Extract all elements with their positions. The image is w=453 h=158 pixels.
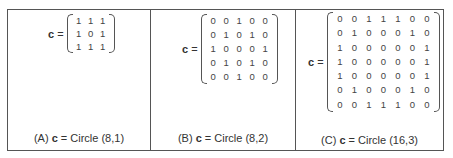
caption-label: (C) (321, 134, 336, 146)
matrix-row: 0 0 1 1 1 0 0 (333, 12, 435, 26)
matrix-cell: 0 (220, 42, 233, 56)
matrix-cell: 0 (405, 41, 420, 55)
equation-c: c = 0 0 1 1 1 0 0 0 1 0 0 0 1 (308, 12, 440, 112)
matrix-cell: 0 (233, 42, 246, 56)
matrix-cell: 0 (246, 70, 259, 84)
matrix-cell: 0 (420, 26, 435, 40)
caption-c: (C) c = Circle (16,3) (296, 134, 443, 146)
figure-table: c = 1 1 1 1 0 1 1 1 1 (A) (7, 9, 444, 151)
matrix-cell: 1 (420, 41, 435, 55)
matrix-cell: 0 (362, 83, 377, 97)
matrix-cell: 0 (347, 12, 362, 26)
matrix-cell: 0 (362, 26, 377, 40)
matrix-cell: 0 (420, 83, 435, 97)
matrix-cell: 0 (362, 69, 377, 83)
matrix-cell: 0 (85, 27, 97, 40)
matrix-cell: 0 (333, 12, 348, 26)
matrix-cell: 1 (259, 42, 272, 56)
matrix-cell: 0 (362, 41, 377, 55)
matrix-cell: 0 (333, 83, 348, 97)
matrix-row: 0 1 0 0 0 1 0 (333, 83, 435, 97)
equation-a: c = 1 1 1 1 0 1 1 1 1 (48, 14, 115, 53)
matrix-row: 0 1 0 0 0 1 0 (333, 26, 435, 40)
matrix-cell: 1 (391, 98, 406, 112)
matrix-cell: 1 (376, 12, 391, 26)
matrix-cell: 1 (246, 28, 259, 42)
matrix-cell: 1 (420, 69, 435, 83)
matrix-cell: 1 (333, 41, 348, 55)
matrix-cell: 0 (347, 41, 362, 55)
matrix-cell: 1 (73, 14, 85, 27)
caption-b: (B) c = Circle (8,2) (151, 132, 295, 144)
matrix-cell: 0 (347, 55, 362, 69)
caption-symbol: c (196, 132, 202, 144)
matrix-cell: 1 (362, 12, 377, 26)
matrix-row: 1 0 1 (73, 27, 109, 40)
matrix-cell: 1 (347, 83, 362, 97)
matrix-cell: 1 (405, 83, 420, 97)
matrix-cell: 1 (220, 28, 233, 42)
matrix-cell: 0 (405, 69, 420, 83)
panel-a: c = 1 1 1 1 0 1 1 1 1 (A) (8, 10, 151, 150)
matrix-cell: 1 (73, 40, 85, 53)
equation-b: c = 0 0 1 0 0 0 1 0 1 0 1 0 (182, 14, 278, 84)
panel-c: c = 0 0 1 1 1 0 0 0 1 0 0 0 1 (296, 10, 443, 150)
matrix-c: 0 0 1 1 1 0 0 0 1 0 0 0 1 0 (327, 12, 441, 112)
matrix-cell: 1 (207, 42, 220, 56)
matrix-row: 1 1 1 (73, 14, 109, 27)
caption-text: = Circle (16,3) (349, 134, 418, 146)
equals-sign: = (57, 28, 63, 40)
matrix-cell: 0 (259, 70, 272, 84)
matrix-cell: 1 (362, 98, 377, 112)
matrix-cell: 0 (347, 69, 362, 83)
equals-sign: = (317, 56, 323, 68)
matrix-cell: 1 (333, 55, 348, 69)
matrix-cell: 0 (362, 55, 377, 69)
matrix-cell: 0 (233, 28, 246, 42)
matrix-row: 0 0 1 0 0 (207, 14, 272, 28)
matrix-cell: 1 (333, 69, 348, 83)
matrix-cell: 1 (97, 14, 109, 27)
matrix-cell: 0 (391, 55, 406, 69)
matrix-cell: 1 (391, 12, 406, 26)
matrix-row: 0 1 0 1 0 (207, 28, 272, 42)
matrix-cell: 1 (246, 56, 259, 70)
matrix-cell: 0 (376, 83, 391, 97)
matrix-cell: 0 (405, 98, 420, 112)
matrix-cell: 0 (376, 26, 391, 40)
matrix-cell: 0 (259, 14, 272, 28)
matrix-a: 1 1 1 1 0 1 1 1 1 (67, 14, 115, 53)
matrix-cell: 1 (376, 98, 391, 112)
matrix-cell: 1 (220, 56, 233, 70)
matrix-cell: 1 (405, 26, 420, 40)
symbol-c: c (182, 43, 188, 55)
matrix-cell: 0 (220, 70, 233, 84)
matrix-cell: 1 (420, 55, 435, 69)
matrix-cell: 1 (347, 26, 362, 40)
matrix-cell: 0 (233, 56, 246, 70)
matrix-row: 1 0 0 0 0 0 1 (333, 41, 435, 55)
matrix-cell: 0 (246, 42, 259, 56)
matrix-cell: 0 (246, 14, 259, 28)
caption-label: (B) (178, 132, 193, 144)
caption-text: = Circle (8,2) (205, 132, 268, 144)
matrix-cell: 0 (391, 41, 406, 55)
matrix-cell: 0 (207, 14, 220, 28)
equation-lhs: c = (48, 28, 64, 40)
caption-text: = Circle (8,1) (61, 132, 124, 144)
equation-lhs: c = (182, 43, 198, 55)
matrix-cell: 1 (97, 27, 109, 40)
matrix-cell: 0 (220, 14, 233, 28)
matrix-b: 0 0 1 0 0 0 1 0 1 0 1 0 0 0 (201, 14, 278, 84)
matrix-cell: 0 (391, 83, 406, 97)
symbol-c: c (48, 28, 54, 40)
equals-sign: = (191, 43, 197, 55)
caption-symbol: c (339, 134, 345, 146)
matrix-cell: 1 (233, 70, 246, 84)
matrix-cell: 0 (376, 69, 391, 83)
matrix-cell: 0 (376, 55, 391, 69)
matrix-cell: 0 (405, 12, 420, 26)
equation-lhs: c = (308, 56, 324, 68)
matrix-row: 1 0 0 0 0 0 1 (333, 69, 435, 83)
matrix-cell: 0 (333, 98, 348, 112)
